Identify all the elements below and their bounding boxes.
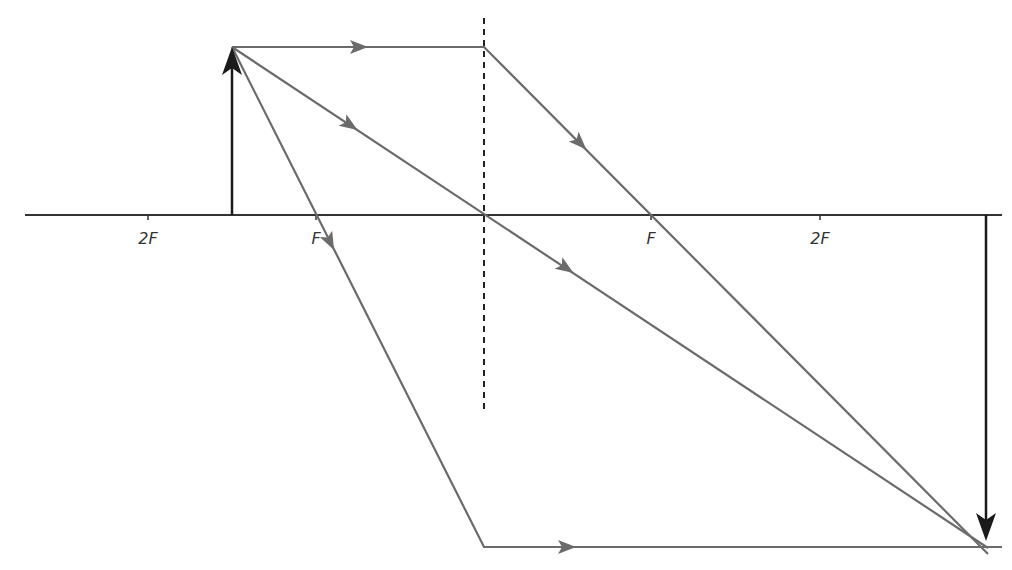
ray-arrowheads	[320, 40, 592, 554]
image-arrow	[976, 215, 996, 541]
label-right-2f: 2F	[810, 229, 829, 248]
arrow-icon	[339, 114, 362, 136]
object-arrow	[222, 47, 242, 215]
ray-centre	[232, 47, 988, 548]
arrow-icon	[320, 231, 341, 253]
label-left-f: F	[311, 229, 320, 248]
arrow-icon	[555, 257, 578, 279]
ray-diagram	[0, 0, 1012, 570]
label-right-f: F	[646, 229, 655, 248]
label-left-2f: 2F	[138, 229, 157, 248]
